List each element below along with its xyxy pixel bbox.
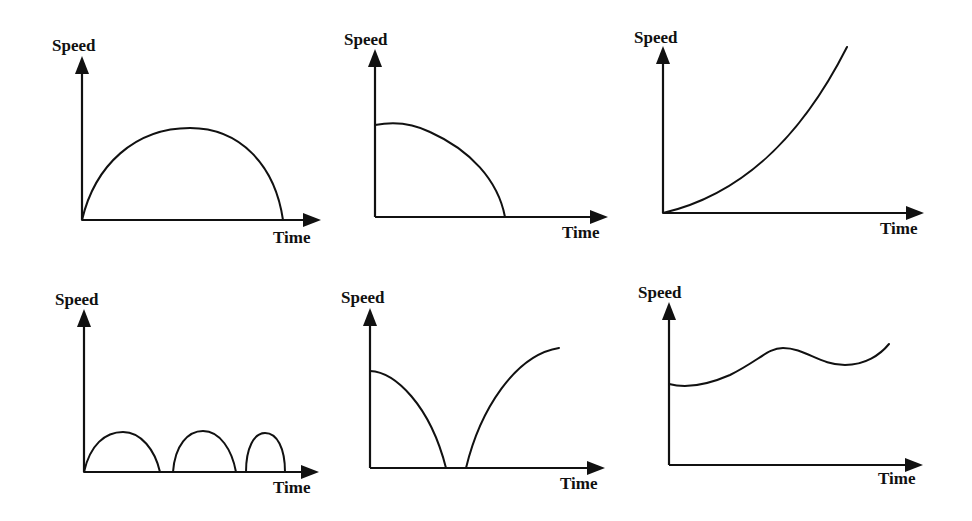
x-axis-arrow-icon [906, 206, 924, 220]
y-axis-arrow-icon [75, 56, 89, 74]
x-axis-label: Time [560, 474, 598, 493]
graph-2: SpeedTime [344, 30, 608, 242]
graph-4: SpeedTime [55, 290, 319, 497]
x-axis-label: Time [562, 223, 600, 242]
speed-curve [84, 432, 160, 472]
x-axis-label: Time [273, 228, 311, 247]
speed-curve [246, 433, 285, 472]
y-axis-label: Speed [634, 28, 678, 47]
y-axis-label: Speed [638, 283, 682, 302]
y-axis-label: Speed [52, 36, 96, 55]
y-axis-arrow-icon [363, 308, 377, 326]
x-axis-label: Time [878, 469, 916, 488]
speed-curve [466, 348, 559, 468]
speed-curve [375, 123, 505, 217]
speed-curve [663, 47, 847, 213]
y-axis-label: Speed [55, 290, 99, 309]
x-axis-arrow-icon [587, 461, 605, 475]
speed-curve [173, 431, 236, 472]
y-axis-arrow-icon [368, 49, 382, 67]
y-axis-arrow-icon [77, 309, 91, 327]
y-axis-arrow-icon [656, 46, 670, 64]
x-axis-arrow-icon [301, 465, 319, 479]
x-axis-label: Time [273, 478, 311, 497]
graph-5: SpeedTime [341, 288, 605, 493]
graph-3: SpeedTime [634, 28, 924, 238]
speed-time-graphs-figure: SpeedTime SpeedTime SpeedTime SpeedTime … [0, 0, 972, 521]
y-axis-label: Speed [344, 30, 388, 49]
y-axis-label: Speed [341, 288, 385, 307]
graph-6: SpeedTime [638, 283, 923, 488]
speed-curve [82, 128, 283, 220]
y-axis-arrow-icon [662, 302, 676, 320]
graph-1: SpeedTime [52, 36, 321, 247]
speed-curve [669, 344, 889, 386]
x-axis-label: Time [880, 219, 918, 238]
x-axis-arrow-icon [590, 210, 608, 224]
x-axis-arrow-icon [303, 213, 321, 227]
speed-curve [370, 371, 446, 468]
